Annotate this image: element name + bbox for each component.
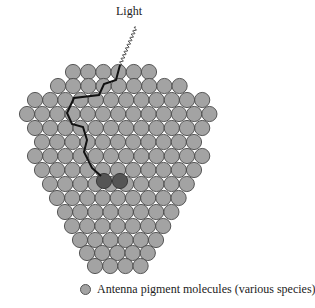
pigment-molecule [179, 148, 194, 163]
pigment-molecule [134, 92, 149, 107]
pigment-molecule [95, 190, 110, 205]
pigment-molecule [103, 92, 118, 107]
pigment-molecule [149, 204, 164, 219]
pigment-molecule [73, 204, 88, 219]
pigment-molecule [126, 64, 141, 79]
pigment-molecule [179, 92, 194, 107]
pigment-molecule [148, 232, 163, 247]
pigment-molecule [88, 120, 103, 135]
pigment-molecule [140, 218, 155, 233]
pigment-molecule [156, 162, 171, 177]
pigment-molecule [171, 106, 186, 121]
pigment-molecule [134, 120, 149, 135]
pigment-molecule [195, 120, 210, 135]
legend: Antenna pigment molecules (various speci… [80, 282, 315, 297]
pigment-molecule [95, 218, 110, 233]
pigment-molecule [35, 106, 50, 121]
pigment-molecule [171, 162, 186, 177]
pigment-molecule [179, 120, 194, 135]
pigment-molecule [87, 258, 102, 273]
pigment-molecule [65, 64, 80, 79]
pigment-molecule [141, 190, 156, 205]
pigment-molecule [134, 176, 149, 191]
pigment-molecule [187, 106, 202, 121]
pigment-molecule [34, 162, 49, 177]
pigment-molecule [156, 106, 171, 121]
pigment-molecule [110, 218, 125, 233]
pigment-molecule [43, 148, 58, 163]
pigment-molecule [65, 162, 80, 177]
pigment-molecule [164, 148, 179, 163]
pigment-molecule [80, 106, 95, 121]
pigment-molecule [96, 64, 111, 79]
pigment-molecule [126, 106, 141, 121]
pigment-molecule [73, 92, 88, 107]
pigment-molecule [50, 78, 65, 93]
pigment-molecule [171, 134, 186, 149]
reaction-center-molecule [96, 173, 111, 188]
pigment-molecule [88, 204, 103, 219]
pigment-molecule [73, 176, 88, 191]
pigment-molecule [34, 134, 49, 149]
pigment-molecule [80, 218, 95, 233]
pigment-molecule [58, 176, 73, 191]
pigment-molecule [95, 106, 110, 121]
pigment-molecule [79, 245, 94, 260]
pigment-molecule [103, 148, 118, 163]
pigment-molecule [164, 120, 179, 135]
pigment-molecule [157, 78, 172, 93]
pigment-molecule [50, 134, 65, 149]
light-photon-wave-icon [120, 27, 137, 65]
pigment-molecule [66, 78, 81, 93]
pigment-molecule [95, 134, 110, 149]
pigment-molecule [43, 92, 58, 107]
legend-label: Antenna pigment molecules (various speci… [97, 282, 315, 297]
pigment-molecule [110, 190, 125, 205]
pigment-molecule [164, 92, 179, 107]
pigment-molecule [125, 190, 140, 205]
pigment-molecule [164, 204, 179, 219]
pigment-molecule [133, 204, 148, 219]
pigment-molecule [103, 120, 118, 135]
pigment-molecule [50, 106, 65, 121]
pigment-molecule [43, 120, 58, 135]
pigment-molecule [81, 78, 96, 93]
pigment-molecule [58, 148, 73, 163]
pigment-molecule [186, 162, 201, 177]
pigment-molecule [195, 92, 210, 107]
pigment-molecule [202, 106, 217, 121]
light-label: Light [116, 4, 142, 19]
pigment-molecule [134, 148, 149, 163]
reaction-center-molecule [112, 173, 127, 188]
pigment-molecule [141, 64, 156, 79]
pigment-molecule [179, 176, 194, 191]
pigment-molecule [156, 218, 171, 233]
pigment-molecule [119, 120, 134, 135]
pigment-molecule [80, 190, 95, 205]
pigment-molecule [111, 106, 126, 121]
pigment-molecule [19, 106, 34, 121]
pigment-molecule [141, 134, 156, 149]
pigment-molecule [141, 162, 156, 177]
pigment-molecule [49, 190, 64, 205]
pigment-molecule [118, 258, 133, 273]
pigment-molecule [149, 176, 164, 191]
pigment-molecule [133, 258, 148, 273]
pigment-molecule [172, 78, 187, 93]
pigment-molecule [50, 162, 65, 177]
pigment-molecule [142, 78, 157, 93]
pigment-molecule [126, 78, 141, 93]
pigment-molecule [80, 134, 95, 149]
pigment-molecule [171, 190, 186, 205]
pigment-molecule [27, 148, 42, 163]
pigment-molecule [88, 148, 103, 163]
pigment-molecule [103, 258, 118, 273]
pigment-molecule-icon [80, 284, 91, 295]
pigment-molecule [27, 120, 42, 135]
pigment-molecule [149, 92, 164, 107]
pigment-molecule [64, 218, 79, 233]
pigment-molecule [125, 218, 140, 233]
pigment-molecule [195, 148, 210, 163]
pigment-molecule [149, 148, 164, 163]
antenna-pigment-array [19, 64, 217, 273]
